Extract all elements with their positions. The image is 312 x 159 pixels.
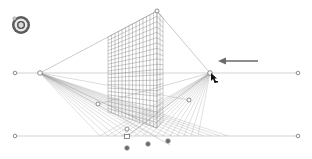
right-grid-extent-handle[interactable] (187, 98, 191, 102)
floor-plane-grid (40, 73, 228, 145)
horizon-height-handle[interactable] (125, 127, 129, 131)
arrow-left-icon (218, 58, 226, 65)
widget-handle[interactable] (13, 17, 16, 20)
right-top-ray (157, 11, 210, 73)
left-plane-control-handle[interactable] (146, 142, 151, 147)
left-vanishing-point-handle[interactable] (38, 71, 43, 76)
right-plane-grid (157, 11, 163, 128)
horizon-right-handle[interactable] (296, 71, 300, 75)
ground-level-handle[interactable] (125, 146, 130, 151)
plane-switching-widget[interactable] (12, 16, 30, 34)
vertical-extent-handle[interactable] (155, 9, 159, 13)
right-plane-control-handle[interactable] (166, 139, 171, 144)
ground-right-handle[interactable] (296, 134, 300, 138)
ground-left-handle[interactable] (13, 134, 17, 138)
cursor-modifier-icon (214, 81, 218, 83)
left-grid-extent-handle[interactable] (96, 102, 100, 106)
horizon-left-handle[interactable] (13, 71, 17, 75)
left-arrow-annotation (218, 58, 258, 65)
perspective-grid-canvas[interactable] (0, 0, 312, 159)
mouse-cursor (211, 73, 218, 83)
origin-handle[interactable] (125, 135, 130, 139)
